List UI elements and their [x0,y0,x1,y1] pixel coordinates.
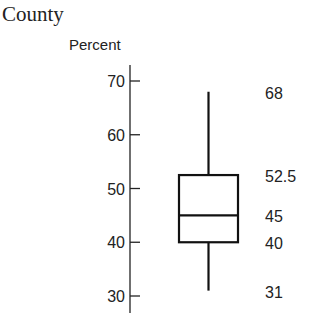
y-tick-label: 40 [107,234,125,251]
y-axis-ticks: 3040506070 [107,73,140,305]
iqr-box [179,175,238,242]
stat-label-min: 31 [265,284,283,301]
box-plot [179,92,238,291]
stat-label-q1: 40 [265,235,283,252]
stat-labels: 6852.5454031 [265,85,296,301]
boxplot-chart: 3040506070 6852.5454031 [0,0,310,322]
y-tick-label: 60 [107,127,125,144]
stat-label-median: 45 [265,208,283,225]
y-tick-label: 30 [107,288,125,305]
y-tick-label: 50 [107,181,125,198]
stat-label-max: 68 [265,85,283,102]
y-tick-label: 70 [107,73,125,90]
stat-label-q3: 52.5 [265,168,296,185]
